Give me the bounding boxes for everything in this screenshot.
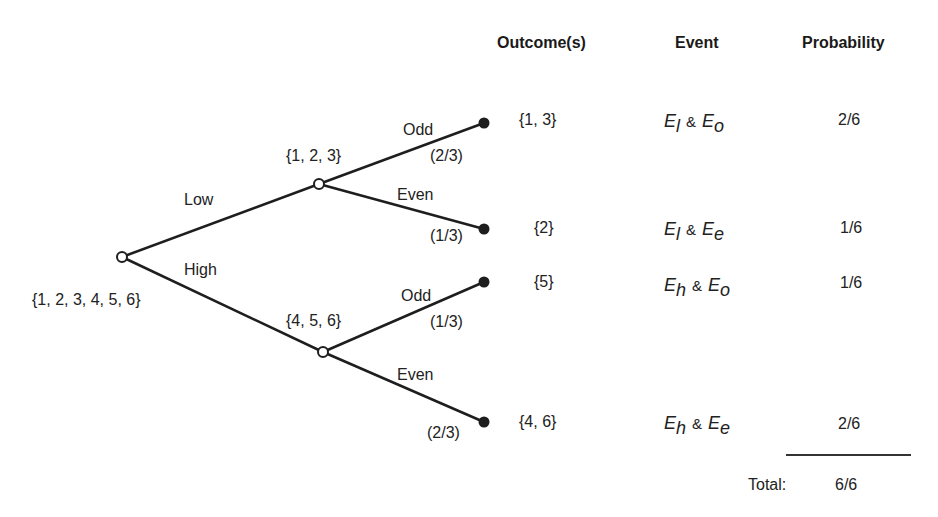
header-event: Event — [675, 35, 719, 51]
header-outcomes: Outcome(s) — [497, 35, 586, 51]
branch-high-label: High — [184, 262, 217, 278]
root-set-label: {1, 2, 3, 4, 5, 6} — [32, 292, 141, 308]
leaf-high-odd-icon — [479, 277, 490, 288]
edge-high — [122, 257, 323, 352]
header-probability: Probability — [802, 35, 885, 51]
high-odd-label: Odd — [401, 288, 431, 304]
event-row-4: Eh&Ee — [664, 414, 730, 437]
leaf-low-odd-icon — [479, 118, 490, 129]
high-even-label: Even — [397, 367, 433, 383]
probability-row-4: 2/6 — [838, 416, 860, 432]
leaf-high-even-icon — [479, 417, 490, 428]
outcome-row-1: {1, 3} — [519, 112, 556, 128]
high-node-icon — [318, 347, 328, 357]
total-value: 6/6 — [835, 477, 857, 493]
edge-low — [122, 184, 319, 257]
high-even-prob: (2/3) — [427, 425, 460, 441]
low-node-icon — [314, 179, 324, 189]
probability-row-1: 2/6 — [838, 112, 860, 128]
low-even-label: Even — [397, 187, 433, 203]
high-odd-prob: (1/3) — [430, 314, 463, 330]
outcome-row-2: {2} — [534, 220, 554, 236]
probability-row-3: 1/6 — [840, 275, 862, 291]
tree-nodes — [117, 118, 490, 428]
total-label: Total: — [748, 477, 786, 493]
event-row-1: El&Eo — [664, 112, 724, 135]
outcome-row-3: {5} — [534, 274, 554, 290]
edge-high-even — [323, 352, 484, 422]
event-row-2: El&Ee — [664, 220, 724, 243]
outcome-row-4: {4, 6} — [519, 414, 556, 430]
event-row-3: Eh&Eo — [664, 276, 730, 299]
high-set-label: {4, 5, 6} — [286, 313, 341, 329]
low-even-prob: (1/3) — [430, 228, 463, 244]
root-node-icon — [117, 252, 127, 262]
low-odd-label: Odd — [403, 122, 433, 138]
tree-graphic — [0, 0, 938, 517]
branch-low-label: Low — [184, 192, 213, 208]
low-odd-prob: (2/3) — [430, 148, 463, 164]
low-set-label: {1, 2, 3} — [286, 148, 341, 164]
probability-row-2: 1/6 — [840, 220, 862, 236]
total-divider — [786, 454, 911, 456]
probability-tree-diagram: Outcome(s) Event Probability {1, 2, 3, 4… — [0, 0, 938, 517]
leaf-low-even-icon — [479, 224, 490, 235]
